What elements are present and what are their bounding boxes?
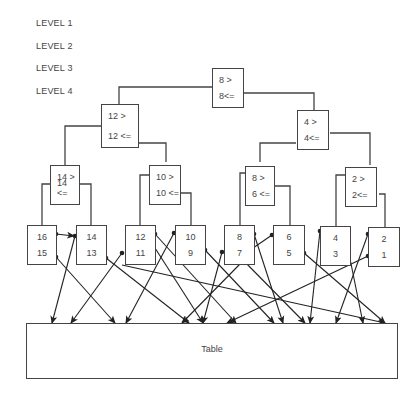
leaf-node-6-5: 6 5 [273,225,305,265]
level3-node-14: 14 > 14 <= [50,165,80,205]
level-4-label: LEVEL 4 [36,86,73,96]
level-2-label: LEVEL 2 [36,41,73,51]
leaf-bottom-label: 11 [126,248,155,258]
level3-node-2: 2 > 2<= [345,167,377,207]
leaf-node-4-3: 4 3 [320,226,351,266]
leaf-bottom-label: 13 [77,248,106,258]
level-3-label: LEVEL 3 [36,63,73,73]
node-top-label: 2 > [352,174,365,184]
leaf-node-10-9: 10 9 [175,225,206,265]
node-bottom-label: 10 <= [156,188,179,198]
node-bottom-label: 8<= [219,91,235,101]
leaf-node-12-11: 12 11 [125,225,156,265]
node-top-label: 8 > [219,75,232,85]
level-1-label: LEVEL 1 [36,18,73,28]
node-bottom-label: 14 <= [57,178,79,198]
level2-node-4: 4 > 4<= [297,110,329,150]
leaf-top-label: 12 [126,232,155,242]
leaf-top-label: 4 [321,233,350,243]
leaf-bottom-label: 7 [225,248,254,258]
level3-node-8: 8 > 6 <= [245,166,275,206]
node-top-label: 4 > [304,117,317,127]
leaf-node-16-15: 16 15 [27,225,57,265]
leaf-top-label: 10 [176,232,205,242]
node-top-label: 12 > [108,111,126,121]
leaf-bottom-label: 5 [274,248,304,258]
node-bottom-label: 2<= [352,190,368,200]
leaf-bottom-label: 3 [321,249,350,259]
level3-node-10: 10 > 10 <= [149,165,181,205]
root-node: 8 > 8<= [212,68,244,108]
leaf-top-label: 8 [225,232,254,242]
leaf-bottom-label: 15 [28,248,56,258]
level2-node-12: 12 > 12 <= [101,104,139,148]
node-top-label: 10 > [156,172,174,182]
table-box: Table [26,323,398,379]
leaf-bottom-label: 9 [176,248,205,258]
table-label: Table [27,344,397,354]
leaf-top-label: 2 [369,234,399,244]
leaf-top-label: 16 [28,232,56,242]
leaf-bottom-label: 1 [369,250,399,260]
node-bottom-label: 12 <= [108,131,131,141]
node-bottom-label: 4<= [304,133,320,143]
leaf-node-8-7: 8 7 [224,225,255,265]
node-top-label: 8 > [252,173,265,183]
node-bottom-label: 6 <= [252,189,270,199]
leaf-top-label: 14 [77,232,106,242]
leaf-node-2-1: 2 1 [368,227,400,267]
leaf-top-label: 6 [274,232,304,242]
leaf-node-14-13: 14 13 [76,225,107,265]
